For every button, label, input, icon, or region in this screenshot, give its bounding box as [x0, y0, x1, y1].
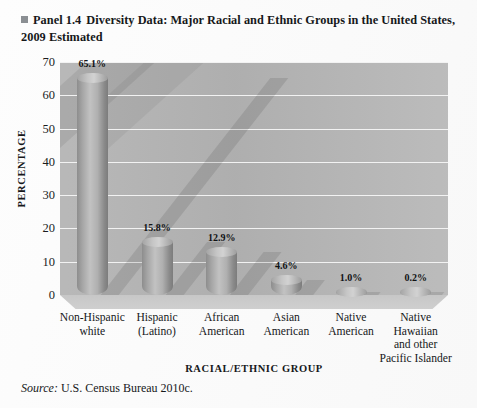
- plot-floor: [60, 295, 448, 309]
- bar-cylinder[interactable]: [206, 252, 237, 295]
- x-axis-category-label: Hispanic(Latino): [121, 311, 194, 338]
- bar-value-label: 15.8%: [143, 222, 171, 233]
- x-axis-category-line: American: [250, 325, 323, 339]
- y-axis-tick-label: 0: [9, 288, 55, 303]
- bar-cylinder-top: [271, 275, 302, 285]
- bar-series: 65.1%15.8%12.9%4.6%1.0%0.2%: [60, 62, 448, 295]
- x-axis-category-label: NativeAmerican: [315, 311, 388, 338]
- square-bullet-icon: [21, 16, 28, 23]
- x-axis-labels: Non-HispanicwhiteHispanic(Latino)African…: [60, 311, 448, 367]
- y-axis-tick-label: 10: [9, 254, 55, 269]
- bar-cylinder-top: [206, 247, 237, 257]
- x-axis-category-line: Hispanic: [121, 311, 194, 325]
- y-axis-tick-label: 20: [9, 221, 55, 236]
- bar-cylinder[interactable]: [400, 292, 431, 295]
- x-axis-category-label: AsianAmerican: [250, 311, 323, 338]
- source-note: Source: U.S. Census Bureau 2010c.: [21, 381, 193, 396]
- y-axis-ticks: 010203040506070: [5, 62, 55, 295]
- bar-column[interactable]: 0.2%: [400, 62, 431, 295]
- bar-column[interactable]: 12.9%: [206, 62, 237, 295]
- bar-value-label: 12.9%: [208, 232, 236, 243]
- y-axis-tick-label: 30: [9, 188, 55, 203]
- bar-column[interactable]: 1.0%: [336, 62, 367, 295]
- bar-cylinder[interactable]: [336, 292, 367, 295]
- y-axis-tick-label: 50: [9, 121, 55, 136]
- y-axis-tick-label: 70: [9, 55, 55, 70]
- source-label: Source:: [21, 381, 58, 395]
- bar-value-label: 65.1%: [79, 58, 107, 69]
- x-axis-category-line: and other: [379, 338, 452, 352]
- x-axis-category-line: white: [56, 325, 129, 339]
- bar-column[interactable]: 65.1%: [77, 62, 108, 295]
- x-axis-category-label: Non-Hispanicwhite: [56, 311, 129, 338]
- bar-column[interactable]: 4.6%: [271, 62, 302, 295]
- bar-cylinder-top: [142, 237, 173, 247]
- chart-figure: PERCENTAGE 010203040506070 65.1%15.8%12.…: [0, 57, 477, 367]
- x-axis-category-label: NativeHawaiianand otherPacific Islander: [379, 311, 452, 365]
- x-axis-category-line: Native: [315, 311, 388, 325]
- x-axis-category-line: American: [315, 325, 388, 339]
- bar-cylinder-top: [77, 73, 108, 83]
- x-axis-category-line: Native: [379, 311, 452, 325]
- figure-page: Panel 1.4Diversity Data: Major Racial an…: [0, 0, 477, 408]
- page-title: Panel 1.4Diversity Data: Major Racial an…: [21, 12, 457, 45]
- source-text: U.S. Census Bureau 2010c.: [61, 381, 193, 395]
- bar-cylinder[interactable]: [142, 242, 173, 295]
- bar-cylinder-top: [336, 287, 367, 297]
- bar-value-label: 0.2%: [404, 272, 427, 283]
- y-axis-tick-label: 60: [9, 88, 55, 103]
- x-axis-category-line: Hawaiian: [379, 325, 452, 339]
- y-axis-tick-label: 40: [9, 154, 55, 169]
- x-axis-category-line: (Latino): [121, 325, 194, 339]
- plot-floor-surface: [60, 295, 448, 309]
- bar-cylinder-top: [400, 287, 431, 297]
- x-axis-category-line: American: [185, 325, 258, 339]
- x-axis-category-line: Non-Hispanic: [56, 311, 129, 325]
- x-axis-category-line: African: [185, 311, 258, 325]
- panel-label: Panel 1.4: [33, 13, 81, 27]
- bar-cylinder[interactable]: [77, 78, 108, 295]
- x-axis-title: RACIAL/ETHNIC GROUP: [60, 363, 448, 374]
- bar-column[interactable]: 15.8%: [142, 62, 173, 295]
- x-axis-category-label: AfricanAmerican: [185, 311, 258, 338]
- x-axis-category-line: Asian: [250, 311, 323, 325]
- bar-value-label: 1.0%: [340, 272, 363, 283]
- panel-title-text: Diversity Data: Major Racial and Ethnic …: [21, 13, 455, 44]
- bar-value-label: 4.6%: [275, 260, 298, 271]
